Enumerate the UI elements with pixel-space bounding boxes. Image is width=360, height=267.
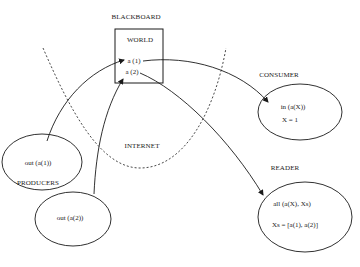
blackboard-label: BLACKBOARD	[111, 13, 160, 21]
tuple-a2: a (2)	[125, 68, 138, 76]
producers-label: PRODUCERS	[17, 179, 59, 187]
world-label: WORLD	[127, 36, 153, 44]
blackboard-diagram: BLACKBOARD WORLD a (1) a (2) INTERNET ou…	[0, 0, 360, 267]
consumer-line-2: X = 1	[282, 116, 298, 124]
producer-2-text: out (a(2))	[57, 214, 84, 222]
reader-ellipse	[258, 182, 352, 252]
producer-1-text: out (a(1))	[25, 159, 52, 167]
arrow-out-a2-to-world	[94, 79, 123, 194]
consumer-line-1: in (a(X))	[281, 103, 306, 111]
reader-label: READER	[271, 164, 300, 172]
internet-boundary	[43, 48, 226, 168]
reader-line-2: Xs = [a(1), a(2)]	[272, 221, 318, 229]
consumer-ellipse	[258, 84, 342, 140]
arrow-world-to-reader	[140, 73, 263, 195]
arrow-world-to-consumer	[143, 60, 268, 102]
reader-line-1: all (a(X), Xs)	[273, 200, 311, 208]
tuple-a1: a (1)	[127, 57, 140, 65]
consumer-label: CONSUMER	[259, 71, 299, 79]
internet-label: INTERNET	[124, 142, 159, 150]
